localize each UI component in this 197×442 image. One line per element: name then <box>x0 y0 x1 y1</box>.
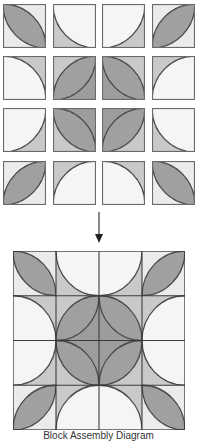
assembled-cell-r2c3 <box>99 296 142 341</box>
assembled-cell-r4c4 <box>142 385 185 430</box>
assembled-cell-r2c2 <box>56 296 99 341</box>
quilt-block-r4c3 <box>102 161 145 205</box>
assembled-cell-r1c3 <box>99 251 142 296</box>
quilt-block-r3c2 <box>53 108 96 152</box>
diagram-caption: Block Assembly Diagram <box>0 430 197 442</box>
quilt-block-r3c1 <box>3 108 46 152</box>
quilt-block-r4c1 <box>3 161 46 205</box>
quilt-block-r3c3 <box>102 108 145 152</box>
quilt-block-r2c4 <box>152 56 195 100</box>
quilt-block-r4c2 <box>53 161 96 205</box>
quilt-block-r1c1 <box>3 4 46 48</box>
quilt-block-r1c3 <box>102 4 145 48</box>
assembled-cell-r1c4 <box>142 251 185 296</box>
assembled-cell-r1c1 <box>13 251 56 296</box>
quilt-block-r2c2 <box>53 56 96 100</box>
assembled-cell-r2c1 <box>13 296 56 341</box>
assembled-cell-r3c3 <box>99 341 142 386</box>
assembled-cell-r3c2 <box>56 341 99 386</box>
assembled-cell-r3c4 <box>142 341 185 386</box>
quilt-block-r1c2 <box>53 4 96 48</box>
individual-blocks-grid <box>0 0 197 210</box>
assembled-cell-r1c2 <box>56 251 99 296</box>
assembled-cell-r2c4 <box>142 296 185 341</box>
assembled-cell-r3c1 <box>13 341 56 386</box>
assembled-cell-r4c1 <box>13 385 56 430</box>
quilt-block-r4c4 <box>152 161 195 205</box>
arrow-down-icon <box>94 212 104 244</box>
quilt-block-r1c4 <box>152 4 195 48</box>
assembled-cell-r4c3 <box>99 385 142 430</box>
quilt-block-r2c3 <box>102 56 145 100</box>
quilt-block-r2c1 <box>3 56 46 100</box>
assembled-block-diagram <box>13 251 185 430</box>
assembled-cell-r4c2 <box>56 385 99 430</box>
quilt-block-r3c4 <box>152 108 195 152</box>
